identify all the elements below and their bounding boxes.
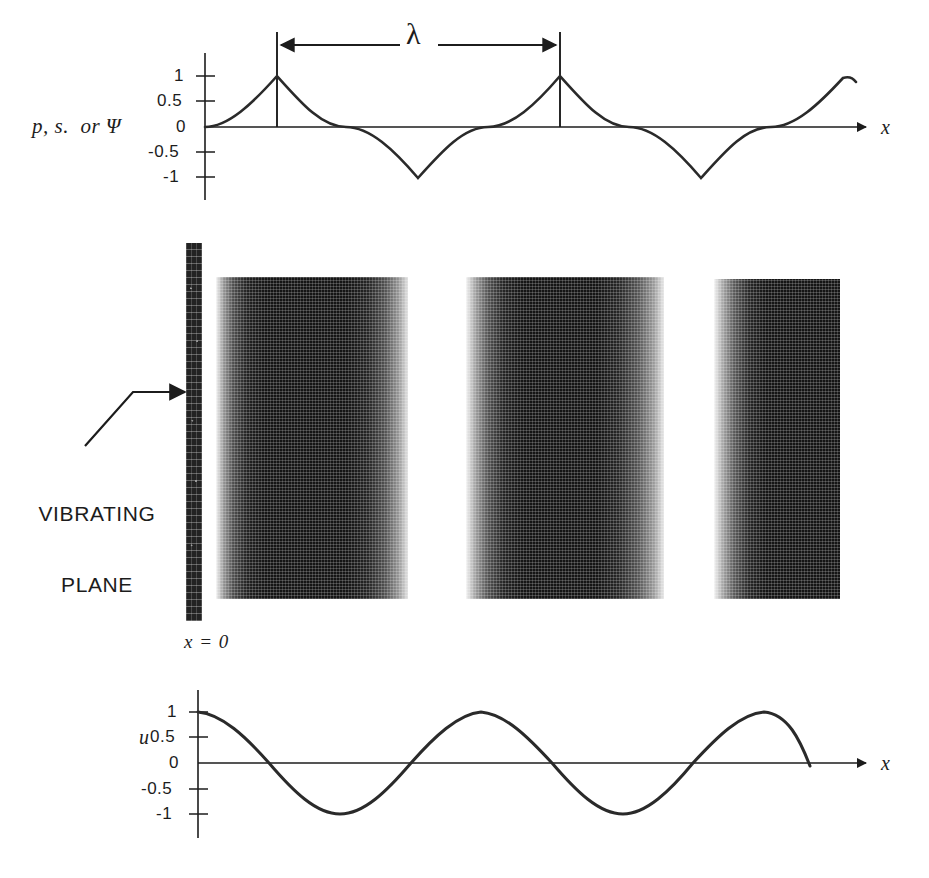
vibrating-plane-label-line1: VIBRATING bbox=[24, 502, 170, 526]
bottom-plot-tick-neg-1: -1 bbox=[156, 804, 172, 824]
top-plot-tick-0-5: 0.5 bbox=[157, 91, 182, 111]
bottom-plot-tick-0-5: 0.5 bbox=[150, 727, 175, 747]
top-plot-tick-1: 1 bbox=[174, 66, 184, 86]
origin-label: x = 0 bbox=[184, 631, 229, 653]
top-plot-tick-neg-1: -1 bbox=[163, 167, 179, 187]
bottom-plot-x-axis-label: x bbox=[881, 752, 890, 775]
top-plot-y-axis-label: p, s. or Ψ bbox=[32, 114, 121, 139]
vibrating-plane-leader-arrow bbox=[85, 392, 185, 446]
bottom-plot-tick-0: 0 bbox=[169, 753, 179, 773]
longitudinal-wave-figure: p, s. or Ψ 1 0.5 0 -0.5 -1 λ x VIBRATING… bbox=[0, 0, 929, 878]
top-plot-tick-0: 0 bbox=[176, 117, 186, 137]
top-plot-tick-neg-0-5: -0.5 bbox=[148, 142, 179, 162]
vibrating-plane-label-line2: PLANE bbox=[24, 573, 170, 597]
wavelength-symbol-label: λ bbox=[406, 17, 421, 51]
bottom-plot-tick-1: 1 bbox=[167, 702, 177, 722]
bottom-plot-y-axis-label: u bbox=[139, 726, 149, 749]
top-plot-x-axis-label: x bbox=[881, 116, 890, 139]
vibrating-plane-label: VIBRATING PLANE bbox=[24, 455, 170, 643]
bottom-plot-tick-neg-0-5: -0.5 bbox=[141, 779, 172, 799]
